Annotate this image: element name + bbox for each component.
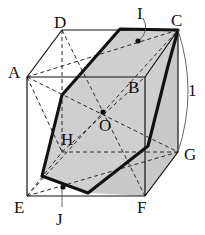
vertex-label-C: C bbox=[171, 12, 182, 29]
point-O-marker bbox=[100, 109, 105, 114]
vertex-label-I: I bbox=[137, 5, 143, 22]
vertex-label-E: E bbox=[14, 199, 24, 216]
edge-length-arc bbox=[178, 30, 188, 152]
geometry-figure: D I C A B 1 O H G E J F bbox=[0, 0, 205, 235]
point-I-marker bbox=[135, 38, 140, 43]
vertex-label-J: J bbox=[56, 211, 63, 228]
vertex-label-F: F bbox=[137, 199, 146, 216]
edge-length-label: 1 bbox=[188, 82, 197, 99]
vertex-label-G: G bbox=[184, 146, 196, 163]
edge-A-D bbox=[27, 30, 62, 77]
center-label-O: O bbox=[99, 117, 111, 134]
point-J-marker bbox=[60, 184, 65, 189]
vertex-label-H: H bbox=[61, 131, 73, 148]
vertex-label-A: A bbox=[8, 64, 20, 81]
vertex-label-D: D bbox=[54, 14, 66, 31]
vertex-label-B: B bbox=[128, 79, 139, 96]
